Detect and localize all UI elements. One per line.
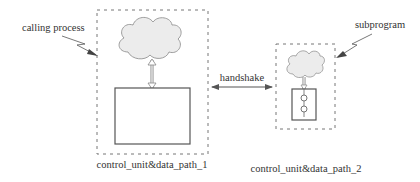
handshake-label: handshake — [220, 72, 265, 83]
cloud-to-box-double-arrow-icon — [148, 59, 156, 89]
unit2-label: control_unit&data_path_2 — [251, 163, 362, 174]
cloud-icon — [119, 17, 181, 58]
calling-process-label: calling process — [22, 22, 85, 33]
cloud-to-box-arrow-icon — [301, 77, 307, 90]
unit2-container: control_unit&data_path_2 — [251, 44, 362, 174]
subprogram-label: subprogram — [355, 19, 405, 30]
cloud-icon — [287, 51, 325, 78]
diagram-canvas: control_unit&data_path_1 control_unit&da… — [0, 0, 420, 182]
unit1-block — [115, 88, 190, 144]
unit1-label: control_unit&data_path_1 — [97, 159, 208, 170]
handshake-connector: handshake — [212, 72, 272, 87]
calling-process-annotation: calling process — [22, 22, 98, 56]
unit1-container: control_unit&data_path_1 — [97, 10, 208, 170]
subprogram-annotation: subprogram — [336, 19, 405, 58]
